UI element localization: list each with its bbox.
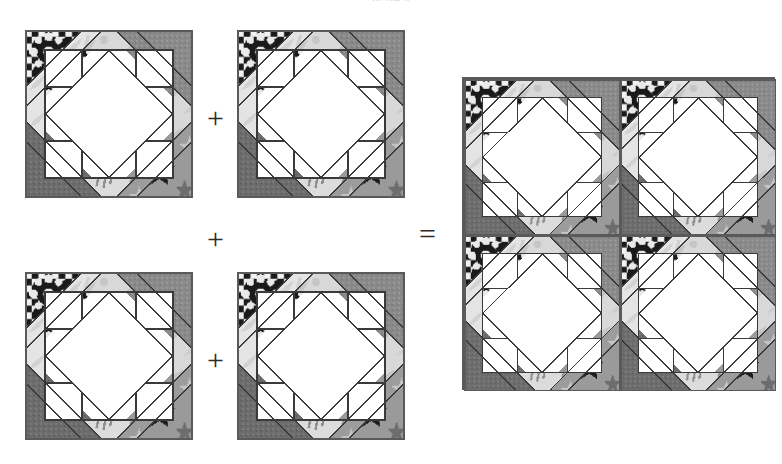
figure-canvas: of the p — [0, 0, 782, 464]
combined-sub-block — [464, 79, 621, 236]
cut-off-header-text: of the p — [0, 0, 782, 1]
quilt-block-3 — [25, 272, 193, 440]
operator-plus-top: + — [207, 103, 224, 133]
quilt-block-2 — [237, 30, 405, 198]
combined-sub-block — [620, 79, 777, 236]
quilt-block-4 — [237, 272, 405, 440]
combined-sub-block — [620, 235, 777, 392]
operator-equals: = — [419, 219, 436, 249]
combined-sub-block — [464, 235, 621, 392]
operator-plus-middle: + — [207, 224, 224, 254]
operator-plus-bottom: + — [207, 345, 224, 375]
quilt-combined-block — [462, 77, 775, 390]
quilt-block-1 — [25, 30, 193, 198]
